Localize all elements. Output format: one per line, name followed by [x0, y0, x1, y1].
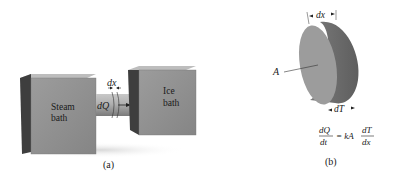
ice-bath-box [128, 66, 196, 135]
steam-box-side [20, 74, 31, 154]
rod-dx-label: dx [107, 77, 117, 88]
ice-bath-label-line1: Ice [163, 86, 175, 96]
steam-bath-label-line2: bath [51, 113, 68, 123]
ice-bath-label-line2: bath [163, 98, 180, 108]
eq-rhs-numerator: dT [362, 125, 373, 135]
heat-conduction-diagram: dx dQ Steam bath Ice bath (a) A dx dT [0, 0, 393, 181]
steam-box-top [20, 74, 96, 78]
eq-middle: = kA [336, 131, 354, 141]
steam-bath-label-line1: Steam [51, 102, 75, 112]
thickness-label: dx [316, 10, 326, 20]
fourier-law-equation: dQ dt = kA dT dx [319, 125, 374, 147]
area-label: A [272, 66, 280, 77]
eq-rhs-denominator: dx [362, 137, 371, 147]
ice-box-side [128, 70, 139, 135]
rod-dq-label: dQ [97, 100, 110, 111]
eq-lhs-denominator: dt [320, 137, 328, 147]
caption-a: (a) [103, 159, 114, 171]
eq-lhs-numerator: dQ [319, 125, 331, 135]
caption-b: (b) [325, 156, 337, 168]
ice-box-top [128, 66, 196, 70]
temperature-diff-label: dT [334, 104, 345, 114]
panel-b: A dx dT dQ dt = kA dT dx (b) [272, 10, 374, 168]
panel-a: dx dQ Steam bath Ice bath (a) [15, 66, 196, 171]
